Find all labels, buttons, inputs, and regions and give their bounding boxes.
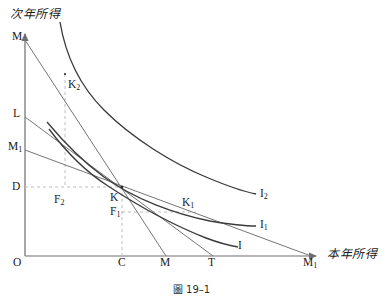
curve-label-i2-sub: 2: [264, 192, 268, 201]
point-label-k1: K1: [182, 197, 194, 209]
point-label-k2: K2: [68, 79, 80, 91]
point-label-k2-sub: 2: [76, 83, 80, 92]
origin-label: O: [13, 257, 21, 269]
x-tick-c: C: [118, 257, 126, 269]
point-k: [121, 186, 124, 189]
y-tick-l-text: L: [13, 107, 20, 119]
y-tick-m1-text: M: [8, 140, 18, 152]
point-label-f1-sub: 1: [116, 210, 120, 219]
curve-label-i-text: I: [238, 239, 242, 251]
point-label-f2: F2: [54, 194, 64, 206]
x-tick-m: M: [160, 257, 170, 269]
point-label-k-text: K: [110, 191, 118, 203]
curve-label-i2: I2: [260, 188, 268, 200]
curve-label-i1: I1: [260, 219, 268, 231]
y-tick-m: M: [12, 31, 22, 43]
x-tick-c-text: C: [118, 256, 126, 268]
y-tick-d: D: [12, 181, 20, 193]
point-label-k1-sub: 1: [190, 201, 194, 210]
x-tick-m1-text: M: [303, 256, 313, 268]
curve-label-i1-sub: 1: [264, 223, 268, 232]
y-tick-d-text: D: [12, 180, 20, 192]
x-tick-m1: M1: [303, 257, 317, 269]
y-tick-m1-sub: 1: [18, 145, 22, 154]
budget-line-m1-m1: [25, 150, 311, 256]
indifference-curve-i2: [60, 22, 256, 194]
x-tick-t-text: T: [208, 256, 215, 268]
y-tick-l: L: [13, 108, 20, 120]
point-k2: [64, 73, 66, 75]
budget-line-m-m: [25, 40, 166, 256]
curve-label-i: I: [238, 240, 242, 252]
point-label-k: K: [110, 192, 118, 204]
y-tick-m-text: M: [12, 30, 22, 42]
x-axis-title: 本年所得: [327, 248, 377, 260]
x-tick-m1-sub: 1: [313, 261, 317, 270]
indifference-curve-i: [49, 129, 238, 247]
diagram-canvas: [0, 0, 383, 303]
y-tick-m1: M1: [8, 141, 22, 153]
y-axis-title: 次年所得: [10, 8, 60, 20]
figure-container: 次年所得 本年所得 O M L M1 D C M T M1 K2 F2 K F1…: [0, 0, 383, 303]
figure-caption: 圖 19–1: [0, 281, 383, 296]
x-tick-m-text: M: [160, 256, 170, 268]
point-label-f1: F1: [110, 206, 120, 218]
x-tick-t: T: [208, 257, 215, 269]
point-label-f2-sub: 2: [60, 198, 64, 207]
